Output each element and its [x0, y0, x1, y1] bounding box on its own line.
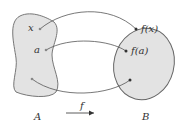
arrowhead-icon — [89, 111, 94, 116]
point-a — [45, 49, 48, 52]
arrow-a-to-fa — [46, 41, 126, 51]
point-x — [39, 28, 42, 31]
label-f: f — [80, 101, 84, 111]
label-set-b: B — [142, 112, 149, 122]
point-3 — [31, 78, 34, 81]
label-a: a — [34, 45, 40, 55]
point-fx — [135, 28, 138, 31]
point-f3 — [129, 79, 132, 82]
label-fx: f(x) — [141, 24, 158, 34]
set-b-shape — [106, 22, 182, 106]
label-fa: f(a) — [131, 46, 148, 56]
point-fa — [125, 50, 128, 53]
set-a-shape — [13, 14, 58, 97]
label-set-a: A — [34, 112, 41, 122]
label-x: x — [28, 23, 34, 33]
function-mapping-diagram — [0, 0, 184, 130]
